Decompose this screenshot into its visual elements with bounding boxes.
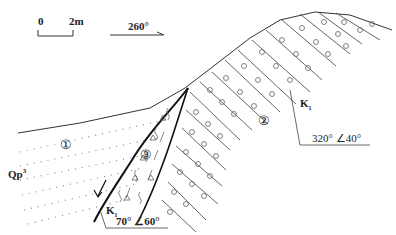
direction-arrow-icon — [110, 32, 164, 35]
geological-cross-section — [0, 0, 396, 235]
direction-label: 260° — [128, 21, 149, 32]
formation-k1-lower-text: K — [106, 204, 115, 216]
formation-k1-upper-sub: 1 — [309, 105, 312, 111]
scale-bar-end-label: 2m — [69, 16, 84, 27]
unit-1-dotted-pattern — [20, 120, 165, 224]
unit-3-label: ③ — [140, 148, 152, 161]
unit-1-symbol-sup: 3 — [23, 167, 27, 175]
ground-surface — [18, 12, 392, 133]
formation-k1-upper-text: K — [300, 97, 309, 109]
unit-2-bedding-lines — [162, 12, 380, 232]
attitude-label-upper: 320° ∠40° — [312, 133, 361, 144]
unit-1-label: ① — [60, 138, 72, 151]
formation-k1-upper: K1 — [300, 98, 312, 111]
unit-2-label: ② — [258, 114, 270, 127]
fault-slip-arrow-icon — [94, 180, 106, 197]
attitude-label-lower: 70° ∠60° — [116, 216, 160, 227]
scale-bar-start-label: 0 — [38, 16, 44, 27]
unit-1-symbol: Qp3 — [8, 168, 26, 180]
scale-bar — [38, 30, 73, 36]
unit-1-symbol-text: Qp — [8, 168, 23, 180]
